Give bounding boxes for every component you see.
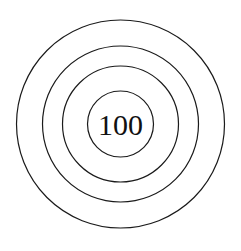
concentric-circles-diagram: 100: [0, 0, 241, 251]
center-label: 100: [98, 108, 143, 141]
